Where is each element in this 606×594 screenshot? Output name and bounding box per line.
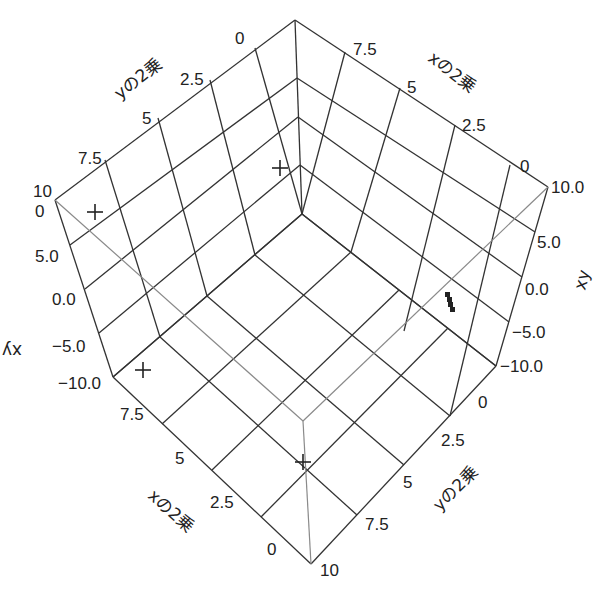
x-back-tick-2.5: 2.5	[462, 116, 486, 135]
y-back-tick-5: 5	[142, 109, 151, 128]
x-back-tick-7.5: 7.5	[353, 40, 377, 59]
z-left-tick-5: 5.0	[35, 247, 59, 266]
z-right-tick-10: 10.0	[551, 178, 584, 197]
y-tick-7.5: 7.5	[365, 515, 389, 534]
x-back-tick-0: 0	[520, 157, 529, 176]
y-tick-2.5: 2.5	[441, 431, 465, 450]
z-axis-label-left: xy	[2, 341, 22, 361]
tick-labels: 7.5 5 2.5 0 0 2.5 5 7.5 10 0 2.5 5 7.5 1…	[33, 29, 584, 580]
axis-labels: yの2乗 xの2乗 xの2乗 yの2乗 xy xy	[2, 47, 594, 536]
y-tick-0: 0	[478, 393, 487, 412]
y-back-tick-2.5: 2.5	[180, 70, 204, 89]
y-tick-10: 10	[320, 561, 339, 580]
z-left-tick-10: 0	[35, 202, 44, 221]
front-edges	[55, 187, 548, 564]
x-tick-0: 0	[267, 540, 276, 559]
y-back-tick-10: 10	[33, 182, 52, 201]
z-left-tick-neg5: −5.0	[52, 337, 86, 356]
z-left-tick-neg10: −10.0	[58, 374, 101, 393]
x-tick-7.5: 7.5	[120, 405, 144, 424]
square-cluster	[445, 292, 455, 312]
y-axis-label-front: yの2乗	[429, 462, 482, 515]
z-left-tick-0: 0.0	[52, 290, 76, 309]
x-axis-label-front: xの2乗	[144, 485, 198, 537]
x-axis-label-back: xの2乗	[425, 47, 481, 97]
z-axis-label-right: xy	[570, 267, 595, 292]
x-back-tick-5: 5	[407, 78, 416, 97]
plus-marker-4	[295, 454, 311, 470]
z-right-tick-5: 5.0	[537, 233, 561, 252]
y-back-tick-0: 0	[235, 29, 244, 48]
x-tick-5: 5	[175, 449, 184, 468]
y-tick-5: 5	[403, 473, 412, 492]
y-back-tick-7.5: 7.5	[78, 149, 102, 168]
plus-marker-1	[87, 204, 103, 220]
z-right-tick-0: 0.0	[525, 280, 549, 299]
3d-chart: 7.5 5 2.5 0 0 2.5 5 7.5 10 0 2.5 5 7.5 1…	[0, 0, 606, 594]
z-right-tick-neg10: −10.0	[500, 357, 543, 376]
x-tick-2.5: 2.5	[210, 493, 234, 512]
y-axis-label-back: yの2乗	[110, 54, 166, 104]
plus-marker-2	[272, 160, 288, 176]
z-right-tick-neg5: −5.0	[512, 323, 546, 342]
left-wall-grid	[55, 20, 302, 377]
plus-marker-3	[135, 362, 151, 378]
